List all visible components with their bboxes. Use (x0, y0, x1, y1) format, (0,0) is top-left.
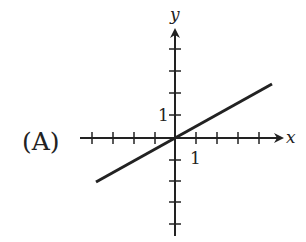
coordinate-graph: (A) y x 1 1 (0, 0, 306, 242)
y-axis-label: y (169, 4, 180, 24)
plotted-line (96, 84, 272, 182)
option-label: (A) (22, 127, 60, 156)
y-unit-label: 1 (158, 105, 169, 125)
x-unit-label: 1 (190, 148, 201, 168)
x-axis-label: x (286, 127, 296, 147)
